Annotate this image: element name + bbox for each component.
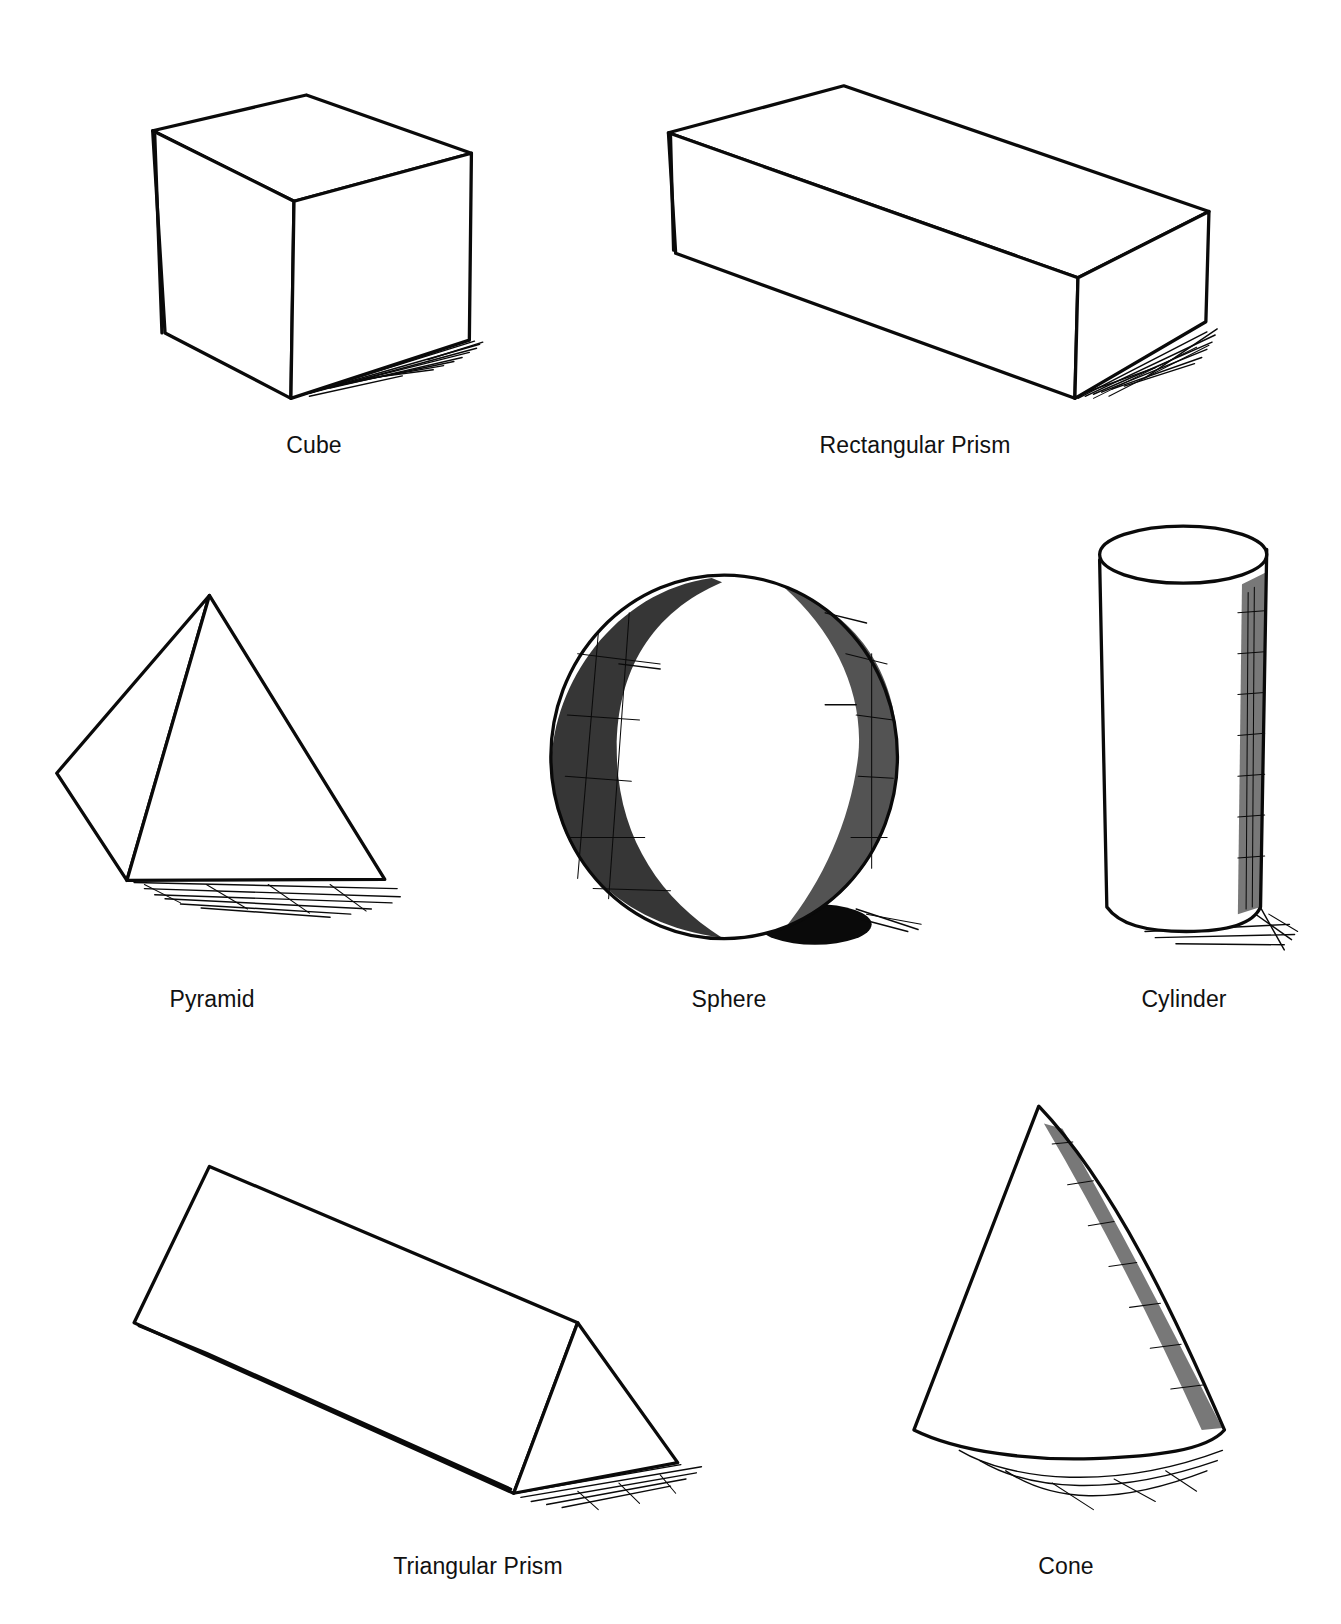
pyramid-drawing [57, 595, 401, 917]
rectangular-prism-drawing [668, 86, 1217, 399]
sphere-drawing [551, 575, 921, 945]
pyramid-shadow [134, 882, 400, 917]
label-pyramid: Pyramid [169, 986, 254, 1013]
label-cube: Cube [286, 432, 341, 459]
cylinder-drawing [1100, 526, 1298, 950]
cube-drawing [153, 95, 483, 398]
triangular-prism-drawing [134, 1166, 701, 1509]
label-rectangular-prism: Rectangular Prism [820, 432, 1011, 459]
label-sphere: Sphere [692, 986, 767, 1013]
cone-drawing [914, 1106, 1224, 1509]
label-cone: Cone [1038, 1553, 1093, 1580]
label-triangular-prism: Triangular Prism [393, 1553, 562, 1580]
geometric-solids-illustration [0, 0, 1341, 1624]
label-cylinder: Cylinder [1141, 986, 1226, 1013]
